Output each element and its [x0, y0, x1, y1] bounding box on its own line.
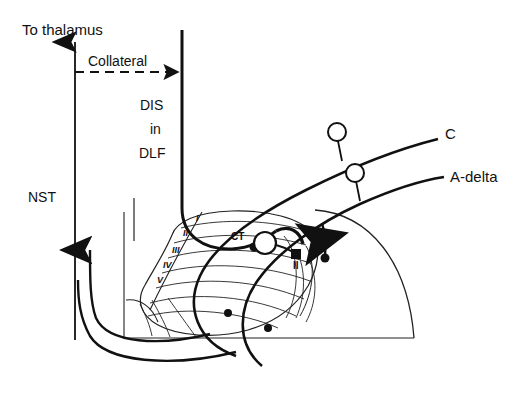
laminae-band-lines	[140, 212, 315, 337]
lamina-numeral-v: V	[157, 276, 163, 285]
lamina-numeral-i: I	[196, 214, 199, 223]
dis-in-dlf-tract	[182, 30, 232, 249]
ventral-ray-2	[152, 300, 170, 337]
lamina-line-3	[168, 250, 310, 263]
nst-label: NST	[28, 190, 56, 204]
lateral-ray-2	[306, 262, 315, 322]
lamina-ii-cell-soma	[291, 249, 301, 259]
lamina-numeral-iii: III	[172, 246, 180, 255]
to-thalamus-label: To thalamus	[22, 22, 103, 37]
in-label: in	[150, 122, 161, 136]
c-fiber-axon	[194, 139, 438, 356]
lateral-collateral-branch	[322, 223, 326, 255]
lamina-ii-cell-group	[291, 249, 301, 259]
spinal-cord-dorsal-horn-diagram: To thalamus Collateral DIS in DLF NST C …	[0, 0, 522, 394]
ct-label: CT	[231, 232, 244, 242]
lamina-line-7	[148, 311, 278, 328]
a-delta-fiber-label: A-delta	[450, 169, 498, 184]
lamina-numeral-ii: II	[183, 229, 188, 238]
a-delta-synapse-dot-1	[264, 324, 272, 332]
ct-cell-body	[254, 232, 276, 254]
lateral-collateral-group	[321, 223, 330, 263]
diagram-canvas	[0, 0, 522, 394]
lamina-ii-cell-label: II	[293, 261, 299, 271]
collateral-label: Collateral	[88, 54, 147, 68]
c-fiber-cell-body	[328, 123, 346, 141]
c-fiber-label: C	[445, 126, 456, 141]
lamina-line-5	[156, 281, 304, 299]
dis-label: DIS	[140, 98, 163, 112]
c-fiber-synapse-dot-1	[224, 309, 232, 317]
cord-lateral-arc	[315, 210, 414, 338]
lamina-numeral-iv: IV	[163, 261, 172, 270]
dlf-inhibitory-arrow	[276, 228, 303, 244]
dlf-label: DLF	[139, 146, 165, 160]
c-fiber-soma-stalk	[338, 141, 342, 161]
a-delta-cell-body	[346, 164, 364, 182]
lateral-collateral-terminal	[321, 254, 330, 263]
a-delta-soma-stalk	[356, 181, 360, 201]
lamina-line-4	[162, 266, 310, 281]
